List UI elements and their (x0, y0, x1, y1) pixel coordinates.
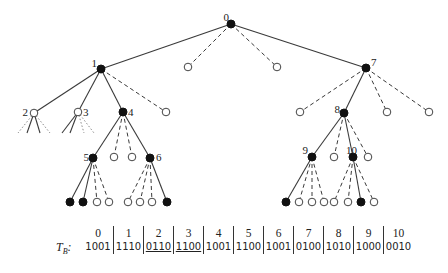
hollow-node-icon (148, 198, 156, 206)
node-label: 9 (303, 144, 309, 156)
node-label: 3 (83, 106, 89, 118)
column-value: 0110 (143, 240, 173, 254)
tree-edge (101, 24, 231, 69)
hollow-node-icon (344, 198, 352, 206)
column-value: 1000 (353, 240, 383, 254)
value-cells: 1001111001101100100111001001010010101000… (83, 240, 413, 254)
tree-edge (344, 68, 366, 113)
column-value: 1100 (173, 240, 203, 254)
column-index: 7 (293, 226, 323, 240)
filled-node-icon (89, 154, 97, 162)
hollow-node-icon (296, 108, 304, 116)
filled-node-icon (66, 198, 74, 206)
tree-edge (128, 158, 150, 202)
column-index: 6 (263, 226, 293, 240)
tree-edge (34, 69, 101, 113)
hollow-node-icon (364, 153, 372, 161)
node-label: 2 (23, 106, 29, 118)
tree-edge (101, 69, 166, 112)
tree-edge (231, 24, 366, 68)
tree-edge (83, 158, 93, 202)
hollow-node-icon (383, 108, 391, 116)
column-value: 1100 (233, 240, 263, 254)
hollow-node-icon (124, 198, 132, 206)
hollow-node-icon (320, 198, 328, 206)
search-tree-diagram: 017234856910 (0, 0, 448, 220)
node-label: 7 (371, 56, 377, 68)
tree-edge (353, 157, 361, 202)
filled-node-icon (308, 153, 316, 161)
column-index: 10 (383, 226, 413, 240)
column-value: 1001 (83, 240, 113, 254)
column-value: 1010 (323, 240, 353, 254)
filled-node-icon (357, 198, 365, 206)
hollow-node-icon (330, 153, 338, 161)
column-index: 2 (143, 226, 173, 240)
tree-edge (150, 158, 152, 202)
filled-node-icon (97, 65, 105, 73)
tree-edges (34, 24, 429, 202)
hollow-node-icon (273, 63, 281, 71)
column-index: 9 (353, 226, 383, 240)
column-value: 0010 (383, 240, 413, 254)
column-index: 3 (173, 226, 203, 240)
hollow-node-icon (136, 198, 144, 206)
hollow-node-icon (330, 198, 338, 206)
filled-node-icon (119, 108, 127, 116)
column-index: 5 (233, 226, 263, 240)
tree-edge (366, 68, 387, 112)
hollow-node-icon (425, 108, 433, 116)
tree-edge (300, 68, 366, 112)
tree-edge (101, 69, 123, 112)
table-value-row: TB: 100111100110110010011100100101001010… (56, 240, 413, 254)
column-index: 1 (113, 226, 143, 240)
hollow-node-icon (74, 108, 82, 116)
column-index: 8 (323, 226, 353, 240)
filled-node-icon (282, 198, 290, 206)
hollow-node-icon (110, 153, 118, 161)
hollow-node-icon (105, 198, 113, 206)
tree-edge (70, 158, 93, 202)
column-value: 0100 (293, 240, 323, 254)
tree-edge (312, 157, 324, 202)
node-label: 5 (84, 151, 90, 163)
node-label: 0 (224, 11, 230, 23)
hollow-node-icon (308, 198, 316, 206)
filled-node-icon (146, 154, 154, 162)
tree-edge (299, 157, 312, 202)
filled-node-icon (163, 198, 171, 206)
tree-edge (231, 24, 277, 67)
column-index: 4 (203, 226, 233, 240)
tree-edge (353, 157, 374, 202)
column-index: 0 (83, 226, 113, 240)
hollow-node-icon (93, 198, 101, 206)
tb-table: 012345678910 TB: 10011110011011001001110… (56, 226, 413, 254)
tree-edge (366, 68, 429, 112)
column-value: 1001 (203, 240, 233, 254)
row-label-colon: : (68, 240, 72, 254)
node-label: 1 (92, 57, 98, 69)
tree-edge (188, 24, 231, 67)
hollow-node-icon (162, 108, 170, 116)
node-label: 8 (335, 103, 341, 115)
hollow-node-icon (295, 198, 303, 206)
index-cells: 012345678910 (83, 226, 413, 240)
tree-edge (150, 158, 167, 202)
tree-edge (78, 69, 101, 112)
filled-node-icon (340, 109, 348, 117)
filled-node-icon (362, 64, 370, 72)
hollow-node-icon (30, 109, 38, 117)
table-header-row: 012345678910 (56, 226, 413, 240)
tree-edge (93, 158, 97, 202)
tree-edge (123, 112, 150, 158)
node-label: 6 (156, 151, 162, 163)
hollow-node-icon (370, 198, 378, 206)
column-value: 1110 (113, 240, 143, 254)
row-label: TB: (56, 240, 83, 254)
node-label: 4 (128, 106, 134, 118)
filled-node-icon (79, 198, 87, 206)
tree-edge (286, 157, 312, 202)
tree-edge (140, 158, 150, 202)
node-label: 10 (346, 144, 358, 156)
hollow-node-icon (184, 63, 192, 71)
